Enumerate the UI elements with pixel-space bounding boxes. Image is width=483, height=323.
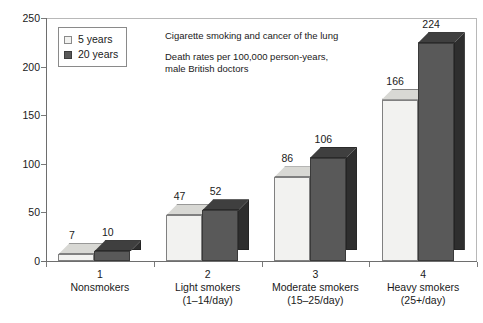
- bar-value-label: 106: [301, 134, 345, 145]
- legend-item-20-years: 20 years: [64, 47, 118, 62]
- bar-front-face: [382, 100, 418, 261]
- bar-side-face: [454, 32, 465, 250]
- bar-dark-heavy-smokers: [418, 43, 454, 261]
- bar-front-face: [58, 254, 94, 261]
- bar-front-face: [274, 177, 310, 261]
- category-sublabel: (1–14/day): [154, 294, 262, 307]
- bar-light-heavy-smokers: [382, 100, 418, 261]
- bar-dark-moderate-smokers: [310, 158, 346, 261]
- bar-dark-nonsmokers: [94, 251, 130, 261]
- bar-front-face: [166, 215, 202, 261]
- category-sublabel: (15–25/day): [262, 294, 370, 307]
- category-name: Heavy smokers: [369, 281, 477, 294]
- category-label-group: 1Nonsmokers: [46, 268, 154, 294]
- category-name: Nonsmokers: [46, 281, 154, 294]
- category-label-group: 2Light smokers(1–14/day): [154, 268, 262, 307]
- annotation-subtitle-line-2: male British doctors: [165, 63, 395, 75]
- category-name: Light smokers: [154, 281, 262, 294]
- category-name: Moderate smokers: [262, 281, 370, 294]
- annotation-subtitle-line-1: Death rates per 100,000 person-years,: [165, 51, 395, 63]
- bar-value-label: 52: [194, 186, 238, 197]
- category-label-group: 3Moderate smokers(15–25/day): [262, 268, 370, 307]
- bar-value-label: 224: [409, 19, 453, 30]
- bar-value-label: 86: [265, 153, 309, 164]
- bar-value-label: 166: [373, 76, 417, 87]
- chart-legend: 5 years 20 years: [58, 27, 127, 67]
- category-number: 2: [154, 268, 262, 281]
- category-number: 4: [369, 268, 477, 281]
- bar-front-face: [418, 43, 454, 261]
- legend-item-5-years: 5 years: [64, 32, 118, 47]
- annotation-subtitle: Death rates per 100,000 person-years, ma…: [165, 51, 395, 75]
- legend-label-5-years: 5 years: [78, 34, 112, 45]
- bar-side-face: [346, 147, 357, 250]
- category-sublabel: (25+/day): [369, 294, 477, 307]
- bar-front-face: [94, 251, 130, 261]
- dark-swatch-icon: [64, 51, 72, 59]
- bar-chart: 050100150200250 747861661052106224 5 yea…: [0, 0, 483, 323]
- legend-label-20-years: 20 years: [78, 49, 118, 60]
- category-label-group: 4Heavy smokers(25+/day): [369, 268, 477, 307]
- category-number: 1: [46, 268, 154, 281]
- bar-dark-light-smokers: [202, 210, 238, 261]
- chart-annotations: Cigarette smoking and cancer of the lung…: [165, 30, 395, 75]
- category-number: 3: [262, 268, 370, 281]
- bar-front-face: [310, 158, 346, 261]
- bar-light-moderate-smokers: [274, 177, 310, 261]
- annotation-title: Cigarette smoking and cancer of the lung: [165, 30, 395, 42]
- bar-value-label: 10: [86, 227, 130, 238]
- light-swatch-icon: [64, 36, 72, 44]
- bar-front-face: [202, 210, 238, 261]
- bar-light-nonsmokers: [58, 254, 94, 261]
- bar-light-light-smokers: [166, 215, 202, 261]
